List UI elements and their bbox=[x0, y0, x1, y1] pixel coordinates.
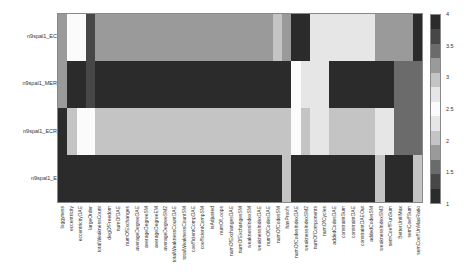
heatmap-cell bbox=[263, 108, 272, 155]
heatmap-cell bbox=[123, 155, 132, 202]
heatmap-cell bbox=[366, 155, 375, 202]
heatmap-cell bbox=[385, 61, 394, 108]
x-axis-label: isAdjusted bbox=[209, 206, 215, 229]
colorbar-segment bbox=[431, 29, 440, 43]
x-axis-label: hasProofs bbox=[284, 206, 290, 229]
heatmap-cell bbox=[207, 108, 216, 155]
heatmap-cell bbox=[319, 108, 328, 155]
x-axis-label: weaknessIndexSM2 bbox=[303, 206, 309, 251]
heatmap-cell bbox=[394, 108, 403, 155]
heatmap-cell bbox=[161, 108, 170, 155]
heatmap-cell bbox=[95, 108, 104, 155]
heatmap-cell bbox=[338, 61, 347, 108]
heatmap-cell bbox=[198, 108, 207, 155]
heatmap-cell bbox=[413, 14, 422, 61]
y-axis-label: n9spal1_E bbox=[31, 175, 57, 181]
heatmap-cell bbox=[366, 14, 375, 61]
heatmap-cell bbox=[403, 155, 412, 202]
heatmap-cell bbox=[95, 155, 104, 202]
heatmap-cell bbox=[291, 155, 300, 202]
heatmap-cell bbox=[133, 155, 142, 202]
colorbar-tick-label: 2 bbox=[446, 138, 449, 144]
x-axis-label: addedCodesSM bbox=[368, 206, 374, 242]
heatmap-cell bbox=[58, 108, 67, 155]
heatmap-cell bbox=[385, 14, 394, 61]
heatmap-cell bbox=[291, 61, 300, 108]
heatmap-cell bbox=[179, 108, 188, 155]
colorbar-segment bbox=[431, 15, 440, 29]
heatmap-cell bbox=[170, 108, 179, 155]
heatmap-cell bbox=[133, 108, 142, 155]
colorbar-tick-label: 3.5 bbox=[446, 43, 454, 49]
heatmap-cell bbox=[273, 14, 282, 61]
heatmap-cell bbox=[179, 14, 188, 61]
heatmap-cell bbox=[235, 14, 244, 61]
heatmap-cell bbox=[403, 61, 412, 108]
colorbar-segment bbox=[431, 58, 440, 72]
heatmap-cell bbox=[77, 61, 86, 108]
heatmap-cell bbox=[86, 14, 95, 61]
x-axis-label: eccentricity bbox=[68, 206, 74, 231]
heatmap-cell bbox=[179, 61, 188, 108]
heatmap-cell bbox=[291, 14, 300, 61]
heatmap-cell bbox=[282, 155, 291, 202]
heatmap-cell bbox=[235, 108, 244, 155]
heatmap-cell bbox=[394, 14, 403, 61]
y-axis-label: n9spal1_MER bbox=[22, 80, 57, 86]
heatmap-cell bbox=[394, 155, 403, 202]
x-axis-label: weaknessIndexSM3 bbox=[378, 206, 384, 251]
heatmap-cell bbox=[366, 61, 375, 108]
heatmap-cell bbox=[245, 14, 254, 61]
heatmap-cell bbox=[67, 14, 76, 61]
heatmap-cell bbox=[207, 155, 216, 202]
heatmap-cell bbox=[282, 14, 291, 61]
heatmap-cell bbox=[58, 14, 67, 61]
x-axis-label: totalWeaknessCountSM bbox=[181, 206, 187, 260]
x-axis-label: averageDegreeEM bbox=[153, 206, 159, 248]
heatmap-cell bbox=[403, 14, 412, 61]
heatmap-cell bbox=[338, 108, 347, 155]
heatmap-cell bbox=[254, 155, 263, 202]
heatmap-cell bbox=[217, 14, 226, 61]
x-axis-label: numOfDAE bbox=[115, 206, 121, 231]
x-axis-label: BetterUntilMax bbox=[397, 206, 403, 239]
x-axis-label: numOfCodesIndexDAE bbox=[293, 206, 299, 258]
colorbar-tick-label: 2.5 bbox=[446, 106, 454, 112]
heatmap-cell bbox=[226, 61, 235, 108]
colorbar-segment bbox=[431, 160, 440, 174]
heatmap-cell bbox=[375, 108, 384, 155]
colorbar-tick-label: 1 bbox=[446, 201, 449, 207]
y-axis-label: n9spal1_EC bbox=[27, 33, 57, 39]
heatmap-cell bbox=[170, 155, 179, 202]
colorbar-segment bbox=[431, 73, 440, 87]
x-axis-label: constraintDAEOut bbox=[359, 206, 365, 246]
heatmap-cell bbox=[301, 155, 310, 202]
heatmap-cell bbox=[366, 108, 375, 155]
heatmap-cell bbox=[161, 14, 170, 61]
heatmap-cell bbox=[254, 108, 263, 155]
heatmap-cell bbox=[357, 14, 366, 61]
heatmap-cell bbox=[170, 14, 179, 61]
heatmap-cell bbox=[282, 61, 291, 108]
heatmap-cell bbox=[67, 108, 76, 155]
heatmap-cell bbox=[245, 108, 254, 155]
heatmap-cell bbox=[357, 61, 366, 108]
colorbar-segment bbox=[431, 131, 440, 145]
x-axis-label: numOfCodesSM bbox=[275, 206, 281, 243]
heatmap-cell bbox=[357, 155, 366, 202]
heatmap-cell bbox=[67, 61, 76, 108]
heatmap-cell bbox=[198, 155, 207, 202]
heatmap-cell bbox=[301, 108, 310, 155]
heatmap-cell bbox=[385, 155, 394, 202]
heatmap-cell bbox=[235, 155, 244, 202]
heatmap-cell bbox=[329, 61, 338, 108]
heatmap-cell bbox=[347, 14, 356, 61]
heatmap-cell bbox=[375, 61, 384, 108]
colorbar-segment bbox=[431, 145, 440, 159]
heatmap-cell bbox=[273, 155, 282, 202]
heatmap-cell bbox=[319, 155, 328, 202]
x-axis-label: numOfComponents bbox=[312, 206, 318, 249]
heatmap-cell bbox=[273, 61, 282, 108]
x-axis-label: numOfCycles bbox=[321, 206, 327, 236]
x-axis-label: totalWeaknessCount bbox=[96, 206, 102, 252]
